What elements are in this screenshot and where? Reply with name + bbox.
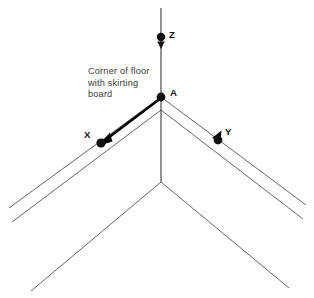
label-axis-y: Y [225,126,232,137]
point-marker-x [96,138,105,147]
z-axis-arrowhead [157,42,165,50]
floor-corner-lines [31,182,289,291]
label-axis-z: Z [169,29,175,40]
diagram-canvas: Corner of floor with skirting board Z A … [0,0,314,298]
corner-diagram-svg [0,0,314,298]
skirting-board-lines [9,97,306,222]
x-vector-line [104,98,161,141]
label-point-a: A [170,87,177,98]
wall-line-right-lower [161,110,303,219]
label-axis-x: X [84,129,91,140]
floor-line-left [31,182,161,291]
floor-line-right [161,182,289,288]
point-marker-a [157,93,166,102]
wall-line-left-lower [12,110,161,222]
point-marker-z [157,33,165,41]
wall-line-right-upper [161,97,306,205]
point-marker-y [214,136,223,145]
